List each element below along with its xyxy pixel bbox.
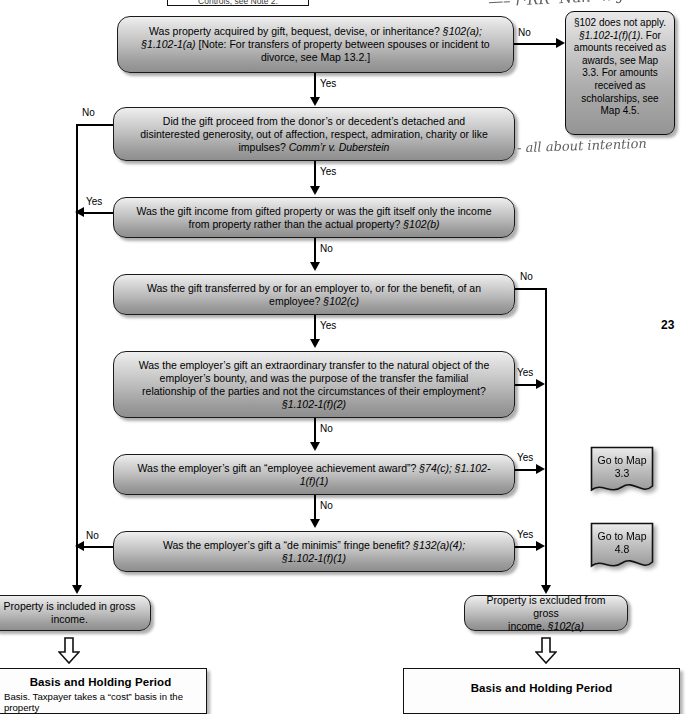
basis-holding-left-title: Basis and Holding Period bbox=[0, 669, 206, 688]
edge-q6-yes bbox=[515, 469, 538, 471]
edge-q4-yes-arrowhead bbox=[310, 339, 320, 348]
basis-holding-right-body bbox=[404, 694, 679, 697]
top-stub-text: Controls, see Note 2. bbox=[168, 0, 308, 6]
edge-label-q5-no: No bbox=[320, 423, 333, 434]
basis-holding-right-title: Basis and Holding Period bbox=[404, 669, 679, 694]
edge-label-q3-no: No bbox=[320, 243, 333, 254]
basis-and-holding-period-left: Basis and Holding Period Basis. Taxpayer… bbox=[0, 668, 207, 714]
edge-q6-yes-arrowhead bbox=[536, 464, 545, 474]
handwriting-intention-note: - all about intention bbox=[517, 136, 647, 156]
go-to-map-4-8-label: Go to Map 4.8 bbox=[590, 530, 654, 556]
go-to-map-3-3[interactable]: Go to Map 3.3 bbox=[590, 446, 654, 498]
edge-label-q7-no: No bbox=[86, 530, 99, 541]
property-excluded-text: Property is excluded from grossincome. §… bbox=[473, 594, 619, 633]
section-102-does-not-apply-note: §102 does not apply.§1.102-1(f)(1). Fora… bbox=[565, 11, 675, 135]
section-102-note-text: §102 does not apply.§1.102-1(f)(1). Fora… bbox=[574, 17, 666, 116]
edge-label-q2-yes: Yes bbox=[320, 166, 336, 177]
employer-to-employee-transfer-question[interactable]: Was the gift transferred by or for an em… bbox=[113, 274, 515, 315]
acquired-by-gift-question[interactable]: Was property acquired by gift, bequest, … bbox=[117, 16, 514, 73]
acquired-by-gift-question-text: Was property acquired by gift, bequest, … bbox=[126, 25, 505, 64]
edge-label-q1-no: No bbox=[518, 27, 531, 38]
edge-label-q2-no: No bbox=[82, 107, 95, 118]
edge-label-q5-yes: Yes bbox=[517, 367, 533, 378]
edge-label-q6-yes: Yes bbox=[517, 452, 533, 463]
go-to-map-4-8-line2: 4.8 bbox=[615, 543, 630, 555]
edge-q1-yes-arrowhead bbox=[310, 97, 320, 106]
right-trunk-line bbox=[545, 288, 547, 588]
block-arrow-left bbox=[58, 637, 80, 668]
edge-q1-no bbox=[514, 43, 558, 45]
top-cropped-note-box: Controls, see Note 2. bbox=[167, 0, 309, 6]
de-minimis-question-text: Was the employer’s gift a “de minimis” f… bbox=[122, 539, 506, 565]
property-included-outcome[interactable]: Property is included in grossincome. bbox=[0, 595, 151, 631]
left-trunk-line bbox=[76, 124, 78, 588]
edge-label-q1-yes: Yes bbox=[320, 78, 336, 89]
detached-disinterested-generosity-question[interactable]: Did the gift proceed from the donor’s or… bbox=[113, 107, 515, 161]
block-arrow-right bbox=[535, 637, 557, 668]
edge-q1-yes bbox=[314, 73, 316, 100]
go-to-map-4-8[interactable]: Go to Map 4.8 bbox=[590, 522, 654, 574]
block-arrow-left-shape bbox=[58, 637, 80, 664]
edge-q7-no bbox=[84, 546, 114, 548]
edge-q5-yes-arrowhead bbox=[536, 379, 545, 389]
block-arrow-right-shape bbox=[535, 637, 557, 664]
gift-income-question-text: Was the gift income from gifted property… bbox=[122, 205, 506, 231]
edge-q7-yes-arrowhead bbox=[536, 541, 545, 551]
edge-q7-no-arrowhead bbox=[75, 541, 84, 551]
go-to-map-3-3-line1: Go to Map bbox=[597, 454, 646, 466]
edge-q4-no bbox=[515, 288, 547, 290]
edge-q3-yes-arrowhead bbox=[75, 207, 84, 217]
extraordinary-transfer-question-text: Was the employer’s gift an extraordinary… bbox=[122, 359, 506, 411]
edge-q3-no-arrowhead bbox=[310, 262, 320, 271]
go-to-map-4-8-line1: Go to Map bbox=[597, 530, 646, 542]
edge-q7-yes bbox=[515, 546, 538, 548]
extraordinary-transfer-familial-question[interactable]: Was the employer’s gift an extraordinary… bbox=[113, 351, 515, 418]
basis-holding-left-body: Basis. Taxpayer takes a “cost” basis in … bbox=[0, 688, 206, 714]
basis-and-holding-period-right: Basis and Holding Period bbox=[403, 668, 680, 714]
edge-label-q6-no: No bbox=[320, 500, 333, 511]
edge-q6-no-arrowhead bbox=[310, 519, 320, 528]
edge-q1-no-arrowhead bbox=[556, 38, 565, 48]
edge-label-q4-no: No bbox=[520, 271, 533, 282]
edge-q5-yes bbox=[515, 384, 538, 386]
property-excluded-outcome[interactable]: Property is excluded from grossincome. §… bbox=[464, 595, 628, 631]
employee-achievement-award-question[interactable]: Was the employer’s gift an “employee ach… bbox=[113, 454, 515, 495]
go-to-map-3-3-line2: 3.3 bbox=[615, 467, 630, 479]
edge-label-q4-yes: Yes bbox=[320, 320, 336, 331]
edge-q2-no bbox=[76, 124, 114, 126]
edge-label-q7-yes: Yes bbox=[517, 529, 533, 540]
edge-q5-no-arrowhead bbox=[310, 442, 320, 451]
employer-transfer-question-text: Was the gift transferred by or for an em… bbox=[122, 282, 506, 308]
gift-income-from-property-question[interactable]: Was the gift income from gifted property… bbox=[113, 197, 515, 238]
de-minimis-fringe-benefit-question[interactable]: Was the employer’s gift a “de minimis” f… bbox=[113, 531, 515, 572]
edge-q2-yes-arrowhead bbox=[310, 186, 320, 195]
edge-q3-yes bbox=[84, 212, 114, 214]
property-included-text: Property is included in grossincome. bbox=[0, 600, 142, 626]
handwriting-top-scribble: —–‘r·RR· Nah· w’JO= uF bbox=[488, 0, 675, 11]
left-trunk-arrowhead bbox=[72, 585, 82, 594]
go-to-map-3-3-label: Go to Map 3.3 bbox=[590, 454, 654, 480]
edge-label-q3-yes: Yes bbox=[86, 196, 102, 207]
page-number: 23 bbox=[661, 318, 674, 332]
achievement-award-question-text: Was the employer’s gift an “employee ach… bbox=[122, 462, 506, 488]
detached-generosity-question-text: Did the gift proceed from the donor’s or… bbox=[122, 115, 506, 154]
